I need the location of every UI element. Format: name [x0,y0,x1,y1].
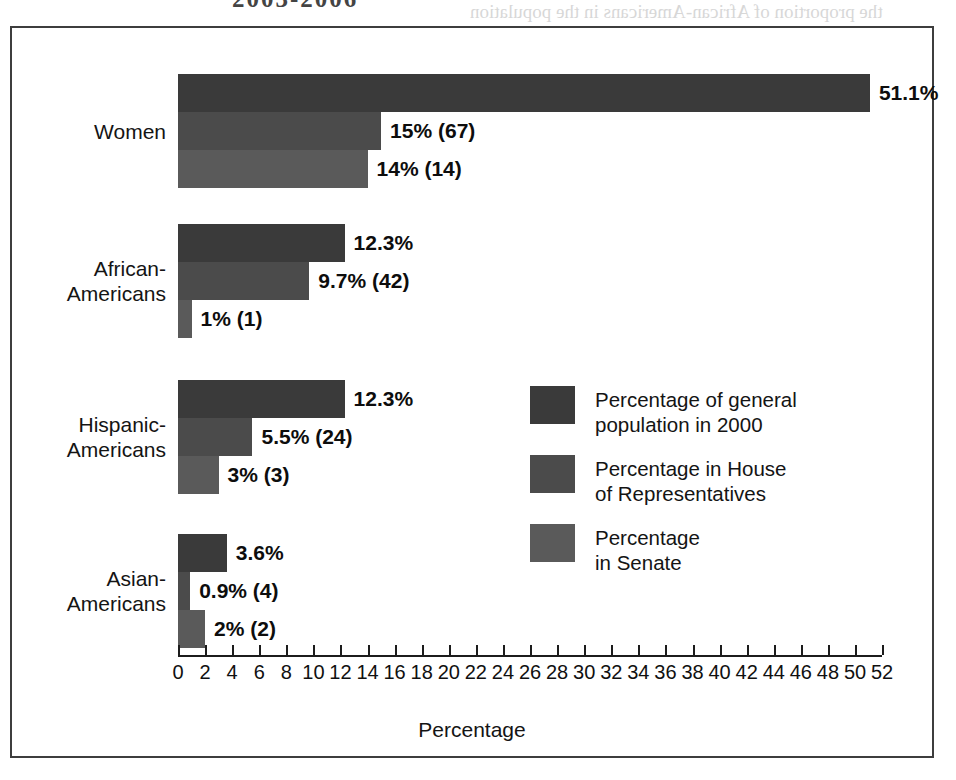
bleed-through-text-1: the proportion of African-Americans in t… [470,1,883,23]
bar-row: 9.7% (42) [178,262,878,300]
bar-senate-1 [178,150,368,188]
x-tick-label: 14 [356,661,378,684]
x-tick-label: 52 [871,661,893,684]
x-tick-label: 22 [465,661,487,684]
x-tick-label: 4 [227,661,238,684]
category-label-hispanic-americans: Hispanic-Americans [0,412,166,462]
bar-senate-4 [178,610,205,648]
x-tick [855,645,857,655]
bar-value-label: 3.6% [236,541,284,565]
x-tick-label: 12 [329,661,351,684]
x-tick [340,645,342,655]
bar-value-label: 15% (67) [390,119,475,143]
legend-swatch-general-population [530,386,575,424]
x-axis-line [178,655,882,657]
x-tick-label: 2 [200,661,211,684]
x-tick [232,645,234,655]
category-label-asian-americans: Asian-Americans [0,566,166,616]
bar-general-population-4 [178,534,227,572]
legend-item-house: Percentage in House of Representatives [530,455,870,506]
bar-group: African-Americans12.3%9.7% (42)1% (1) [12,224,932,338]
bar-row: 2% (2) [178,610,878,648]
bar-senate-3 [178,456,219,494]
bar-row: 51.1% [178,74,878,112]
bar-general-population-1 [178,74,870,112]
x-tick-label: 46 [790,661,812,684]
x-tick-label: 30 [573,661,595,684]
bar-value-label: 9.7% (42) [318,269,409,293]
x-tick [584,645,586,655]
x-tick [286,645,288,655]
x-tick-label: 44 [763,661,785,684]
x-tick-label: 32 [600,661,622,684]
bar-row: 14% (14) [178,150,878,188]
legend-swatch-senate [530,524,575,562]
bar-house-4 [178,572,190,610]
x-tick-label: 8 [281,661,292,684]
x-tick-label: 24 [492,661,514,684]
x-axis: 0246810121416182022242628303234363840424… [178,655,882,715]
bar-senate-2 [178,300,192,338]
x-tick [422,645,424,655]
bar-row: 12.3% [178,224,878,262]
x-tick-label: 10 [302,661,324,684]
legend-swatch-house [530,455,575,493]
x-tick [178,645,180,655]
x-tick [259,645,261,655]
bar-value-label: 12.3% [354,231,414,255]
x-tick-label: 48 [817,661,839,684]
x-tick-label: 6 [254,661,265,684]
bleed-through-title: 2003-2006 [232,0,358,13]
x-tick-label: 18 [411,661,433,684]
x-tick [313,645,315,655]
x-tick-label: 26 [519,661,541,684]
x-tick [557,645,559,655]
bar-value-label: 0.9% (4) [199,579,278,603]
x-tick [476,645,478,655]
category-label-women: Women [0,119,166,144]
x-tick-label: 50 [844,661,866,684]
x-tick-label: 28 [546,661,568,684]
x-tick [503,645,505,655]
category-label-african-americans: African-Americans [0,256,166,306]
x-tick [828,645,830,655]
chart-frame: Women51.1%15% (67)14% (14)African-Americ… [10,26,934,758]
bar-value-label: 14% (14) [377,157,462,181]
bar-group: Women51.1%15% (67)14% (14) [12,74,932,188]
legend-label-house: Percentage in House of Representatives [595,455,786,506]
x-tick [747,645,749,655]
bar-value-label: 3% (3) [228,463,290,487]
bar-value-label: 2% (2) [214,617,276,641]
legend-label-general-population: Percentage of general population in 2000 [595,386,797,437]
x-tick-label: 36 [654,661,676,684]
bar-value-label: 12.3% [354,387,414,411]
x-tick [530,645,532,655]
legend-label-senate: Percentage in Senate [595,524,700,575]
bar-house-3 [178,418,252,456]
x-tick [449,645,451,655]
x-tick-label: 42 [736,661,758,684]
x-axis-title: Percentage [12,718,932,742]
x-tick [720,645,722,655]
x-tick [882,645,884,655]
x-tick [368,645,370,655]
x-tick-label: 0 [172,661,183,684]
bar-house-1 [178,112,381,150]
x-tick [205,645,207,655]
x-tick [801,645,803,655]
legend-item-senate: Percentage in Senate [530,524,870,575]
x-tick [395,645,397,655]
x-tick [611,645,613,655]
page-bleed-through-layer: 2003-2006 the proportion of African-Amer… [0,0,956,26]
x-tick-label: 16 [384,661,406,684]
bar-value-label: 5.5% (24) [261,425,352,449]
x-tick-label: 38 [681,661,703,684]
x-tick [774,645,776,655]
x-tick [665,645,667,655]
bar-general-population-2 [178,224,345,262]
x-tick-label: 40 [708,661,730,684]
bar-house-2 [178,262,309,300]
x-tick-label: 34 [627,661,649,684]
bar-value-label: 51.1% [879,81,939,105]
x-tick [693,645,695,655]
